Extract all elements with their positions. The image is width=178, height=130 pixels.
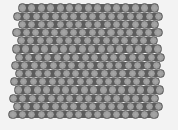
micrograph-image: [0, 0, 178, 130]
particle: [149, 110, 158, 119]
particle: [37, 110, 46, 119]
particle: [84, 110, 93, 119]
particle: [55, 110, 64, 119]
particle: [102, 110, 111, 119]
particle: [155, 85, 164, 94]
particle: [8, 110, 17, 119]
particle: [131, 110, 140, 119]
